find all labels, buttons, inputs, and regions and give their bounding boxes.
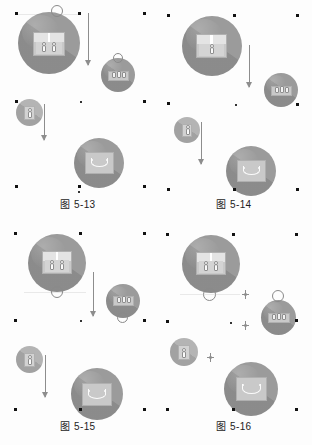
ring-icon (117, 312, 128, 323)
flow-arrow-top (85, 13, 92, 65)
destination-box-circle[interactable] (74, 138, 124, 188)
figure-caption: 图 5-16 (156, 418, 312, 433)
person-circle[interactable] (16, 346, 43, 373)
ring-icon (113, 53, 123, 63)
person-circle[interactable] (170, 338, 198, 366)
figure-canvas (0, 222, 156, 445)
person-box-icon (182, 124, 192, 137)
destination-box-icon (85, 152, 114, 174)
ring-icon (51, 286, 63, 298)
flow-arrow-top (90, 272, 97, 316)
flow-marker-3 (207, 353, 214, 362)
goods-circle[interactable] (261, 300, 296, 335)
source-box-circle[interactable] (28, 234, 86, 292)
figure-caption: 图 5-15 (0, 418, 156, 433)
stacked-rolls-icon (275, 86, 289, 93)
figure-panel-5-13[interactable]: 图 5-13 (0, 0, 156, 222)
flow-marker-1 (242, 290, 249, 299)
ring-icon (203, 288, 216, 301)
flow-marker-2 (242, 321, 249, 330)
ring-icon (272, 290, 284, 302)
figure-canvas (156, 222, 312, 445)
destination-box-icon (236, 377, 267, 401)
figure-caption: 图 5-14 (156, 196, 312, 211)
figure-panel-5-15[interactable]: 图 5-15 (0, 222, 156, 445)
flow-arrow-top (246, 45, 253, 87)
person-circle[interactable] (16, 99, 43, 126)
goods-circle[interactable] (101, 58, 135, 92)
figure-canvas (156, 0, 312, 222)
source-box-circle[interactable] (182, 235, 240, 293)
flow-arrow-bottom (42, 355, 49, 397)
goods-box-icon (108, 71, 129, 81)
figure-canvas (0, 0, 156, 222)
v-shape-icon (242, 384, 261, 394)
person-circle[interactable] (174, 117, 200, 143)
destination-box-icon (82, 383, 112, 406)
ring-icon (51, 5, 63, 17)
open-box-icon (33, 32, 65, 56)
goods-box-icon (113, 296, 134, 306)
goods-box-icon (268, 313, 290, 323)
stacked-rolls-icon (117, 296, 131, 303)
person-box-icon (24, 353, 35, 367)
figure-panel-5-16[interactable]: 图 5-16 (156, 222, 312, 445)
goods-circle[interactable] (264, 73, 298, 107)
person-box-icon (24, 106, 35, 120)
open-box-icon (196, 34, 227, 58)
open-box-icon (42, 251, 72, 274)
source-box-circle[interactable] (182, 16, 242, 76)
goods-box-icon (271, 86, 292, 96)
destination-box-circle[interactable] (71, 368, 123, 420)
destination-box-icon (237, 160, 266, 182)
figure-panel-5-14[interactable]: 图 5-14 (156, 0, 312, 222)
flow-arrow-bottom (198, 122, 205, 164)
person-figure-icon (52, 42, 56, 52)
figure-sheet-page: 图 5-13 (0, 0, 312, 445)
open-box-icon (196, 252, 226, 275)
stacked-rolls-icon (112, 71, 126, 78)
person-figure-icon (42, 42, 46, 52)
flow-arrow-bottom (41, 104, 48, 140)
figure-caption: 图 5-13 (0, 196, 156, 211)
person-box-icon (178, 345, 190, 360)
source-box-circle[interactable] (18, 12, 80, 74)
stacked-rolls-icon (272, 313, 286, 320)
